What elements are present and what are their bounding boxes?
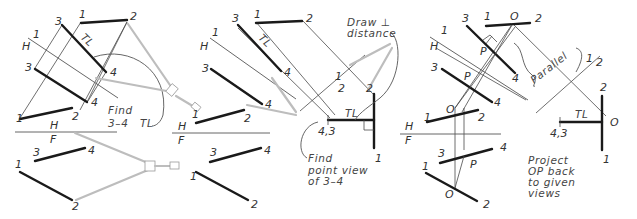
label-o: O [445, 188, 454, 201]
label-2: 2 [72, 200, 79, 213]
label-f: F [405, 134, 412, 147]
label-2: 2 [366, 82, 373, 95]
label-2: 2 [483, 198, 490, 211]
note-distance: distance [347, 27, 396, 39]
label-h: H [22, 40, 30, 53]
label-1: 1 [422, 160, 429, 173]
label-3: 3 [25, 61, 32, 74]
note-of-3-4: of 3–4 [308, 175, 344, 187]
label-f: F [178, 134, 185, 147]
label-point-4-3: 4,3 [550, 127, 568, 140]
label-1: 1 [375, 152, 382, 165]
label-h: H [178, 120, 186, 133]
label-3: 3 [462, 12, 469, 25]
label-4: 4 [494, 96, 501, 109]
label-1: 1 [484, 10, 491, 23]
label-o: O [510, 10, 519, 23]
label-p: P [470, 158, 477, 171]
label-1: 1 [212, 26, 219, 39]
note-views: views [528, 187, 561, 199]
label-4: 4 [512, 72, 519, 85]
label-4: 4 [91, 96, 98, 109]
label-o: O [446, 103, 455, 116]
label-2: 2 [130, 10, 137, 23]
label-1: 1 [603, 153, 610, 166]
label-3: 3 [202, 62, 209, 75]
label-2: 2 [535, 12, 542, 25]
label-3: 3 [431, 61, 438, 74]
label-tl: TL [345, 107, 358, 119]
label-3: 3 [232, 12, 239, 25]
label-3: 3 [210, 146, 217, 159]
label-3: 3 [438, 147, 445, 160]
label-p: P [464, 70, 471, 83]
label-1: 1 [33, 28, 40, 41]
panel-1: 3 1 2 TL 1 H 3 4 4 1 2 Find 3–4 TL H F 3… [15, 8, 201, 213]
label-point-4-3: 4,3 [318, 125, 336, 138]
label-2: 2 [596, 56, 603, 69]
label-tl: TL [575, 108, 588, 120]
label-2: 2 [600, 81, 607, 94]
label-h: H [405, 120, 413, 133]
label-2: 2 [244, 112, 251, 125]
label-f: F [50, 133, 57, 146]
label-4: 4 [110, 66, 117, 79]
label-3: 3 [55, 15, 62, 28]
label-1: 1 [441, 24, 448, 37]
label-2: 2 [338, 82, 345, 95]
label-1: 1 [15, 158, 22, 171]
label-4: 4 [265, 98, 272, 111]
label-1: 1 [16, 112, 23, 125]
label-2: 2 [72, 110, 79, 123]
label-2: 2 [251, 198, 258, 211]
note-tl: TL [140, 117, 153, 129]
label-2: 2 [478, 111, 485, 124]
label-h: H [430, 40, 438, 53]
note-find: Find [108, 104, 133, 116]
label-4: 4 [284, 66, 291, 79]
note-parallel: Parallel [528, 49, 570, 85]
panel-2: 3 1 2 TL 1 H 3 4 4 1 2 2 TL 4,3 1 Draw ⊥… [172, 8, 398, 211]
label-1: 1 [424, 111, 431, 124]
note-3-4: 3–4 [108, 117, 128, 129]
descriptive-geometry-figure: 3 1 2 TL 1 H 3 4 4 1 2 Find 3–4 TL H F 3… [0, 0, 637, 219]
label-4: 4 [88, 144, 95, 157]
label-h: H [200, 40, 208, 53]
label-4: 4 [264, 144, 271, 157]
label-1: 1 [254, 8, 261, 21]
label-o: O [610, 116, 619, 129]
label-1: 1 [192, 108, 199, 121]
label-p: P [480, 45, 487, 58]
label-4: 4 [500, 141, 507, 154]
label-2: 2 [306, 12, 313, 25]
label-1: 1 [190, 170, 197, 183]
label-3: 3 [33, 146, 40, 159]
panel-3: 3 1 O 2 1 H P 3 P 4 4 O 1 2 H F 3 4 P 1 … [400, 10, 619, 211]
label-1: 1 [79, 8, 86, 21]
label-1: 1 [586, 52, 593, 65]
note-find: Find [308, 152, 333, 164]
label-h: H [50, 119, 58, 132]
